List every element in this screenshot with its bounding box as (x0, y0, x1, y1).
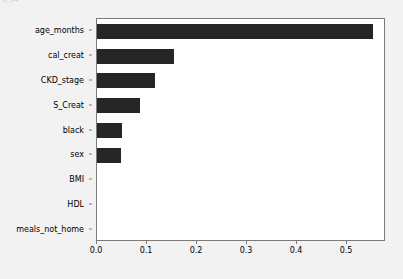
bar-cal_creat (97, 49, 174, 64)
y-axis-label-CKD_stage: CKD_stage (41, 75, 84, 84)
y-axis-label-age_months: age_months (35, 26, 84, 35)
y-axis-label-HDL: HDL (67, 199, 84, 208)
x-axis-tick-label: 0.0 (90, 246, 103, 256)
bar-CKD_stage (97, 73, 155, 88)
x-axis-tick (146, 241, 147, 244)
y-axis-tick (89, 79, 92, 80)
y-axis-label-black: black (63, 125, 84, 134)
y-axis-label-sex: sex (70, 150, 84, 159)
y-axis-tick (89, 55, 92, 56)
y-axis-label-meals_not_home: meals_not_home (16, 224, 84, 233)
y-axis-label-cal_creat: cal_creat (48, 51, 84, 60)
bar-S_Creat (97, 98, 140, 113)
x-axis-tick-label: 0.3 (240, 246, 253, 256)
bar-sex (97, 148, 121, 163)
y-axis-label-BMI: BMI (69, 175, 84, 184)
x-axis-tick (196, 241, 197, 244)
x-axis-tick-label: 0.5 (340, 246, 353, 256)
y-axis-tick (89, 154, 92, 155)
y-axis-tick (89, 179, 92, 180)
bars-layer (97, 19, 384, 240)
x-axis-tick (296, 241, 297, 244)
y-axis-tick (89, 228, 92, 229)
x-axis-tick-label: 0.1 (140, 246, 153, 256)
y-axis-tick (89, 203, 92, 204)
x-axis-tick (246, 241, 247, 244)
bar-age_months (97, 24, 373, 39)
bar-chart-figure: age_monthscal_creatCKD_stageS_Creatblack… (0, 0, 403, 279)
y-axis-tick (89, 129, 92, 130)
y-axis-tick (89, 104, 92, 105)
bar-black (97, 123, 122, 138)
x-axis-tick-label: 0.2 (190, 246, 203, 256)
plot-area (96, 18, 385, 241)
y-axis-label-S_Creat: S_Creat (53, 100, 84, 109)
x-axis: 0.00.10.20.30.40.5 (96, 241, 385, 267)
y-axis-category-labels: age_monthscal_creatCKD_stageS_Creatblack… (0, 18, 92, 241)
x-axis-tick (96, 241, 97, 244)
x-axis-tick (346, 241, 347, 244)
x-axis-tick-label: 0.4 (290, 246, 303, 256)
y-axis-tick (89, 30, 92, 31)
